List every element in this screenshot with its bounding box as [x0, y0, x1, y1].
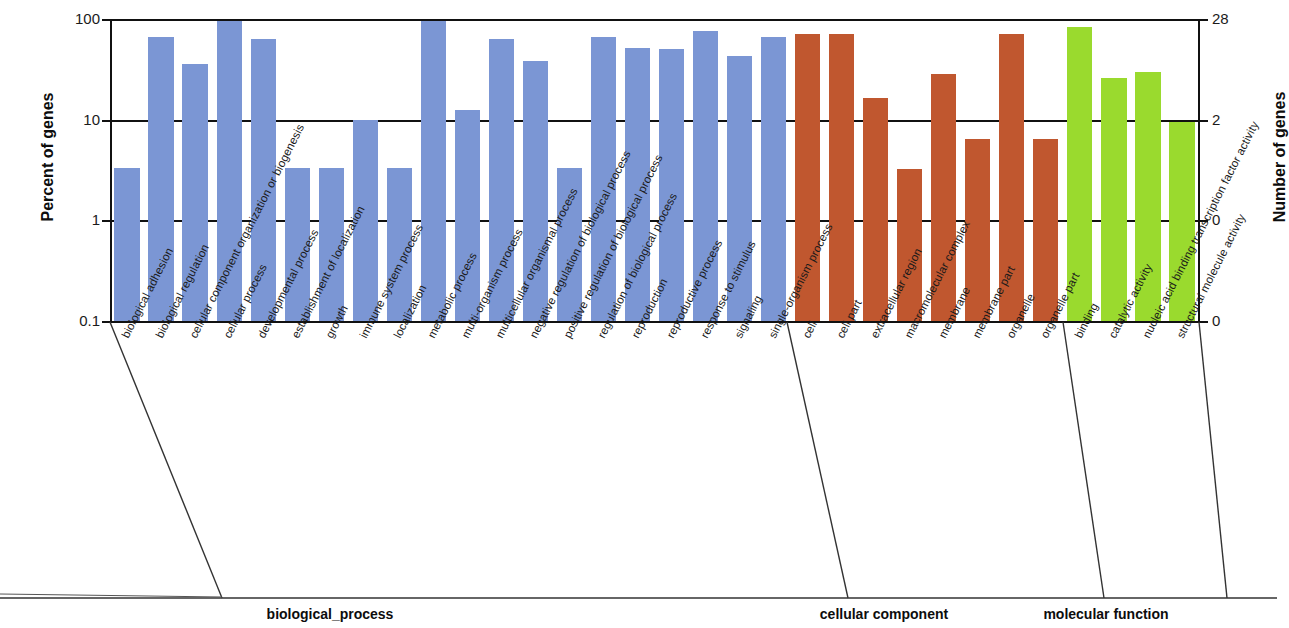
category-label: cell part — [834, 298, 863, 340]
category-label: multi-organism process — [460, 227, 526, 340]
category-label: single-organism process — [766, 221, 834, 340]
category-label: binding — [1072, 301, 1100, 340]
category-label: localization — [392, 283, 429, 340]
category-label: structural molecule activity — [1174, 212, 1247, 340]
category-label: cell — [800, 319, 819, 340]
category-label: reproduction — [630, 277, 670, 340]
category-label: membrane — [936, 285, 972, 340]
group-label-cellular-component: cellular component — [764, 606, 1004, 622]
category-label: organelle — [1004, 292, 1037, 340]
category-label: developmental process — [255, 227, 320, 340]
category-label: growth — [324, 303, 351, 340]
category-label: macromolecular complex — [902, 219, 972, 340]
category-label: signaling — [732, 293, 764, 340]
group-label-molecular-function: molecular function — [986, 606, 1226, 622]
category-label: immune system process — [358, 222, 426, 340]
group-label-biological-process: biological_process — [210, 606, 450, 622]
category-label: establishment of localization — [289, 204, 366, 340]
